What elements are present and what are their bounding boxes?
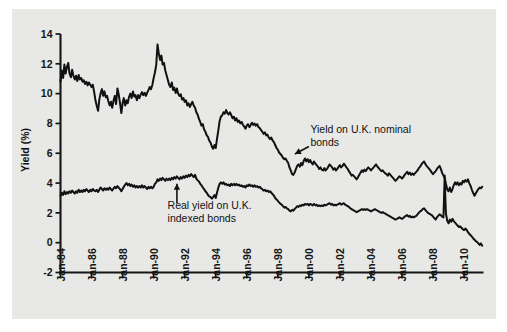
y-tick-label-6: 6 — [47, 147, 53, 159]
x-tick-label-Jan-04: Jan-04 — [365, 248, 377, 281]
y-tick-label-12: 12 — [41, 58, 53, 70]
x-tick-label-Jan-98: Jan-98 — [272, 248, 284, 281]
y-tick-label-0: 0 — [47, 236, 53, 248]
axis-lines-group — [61, 34, 484, 273]
y-tick-label-14: 14 — [41, 28, 53, 40]
x-tick-label-Jan-06: Jan-06 — [396, 248, 408, 281]
y-tick-labels-group: -202468101214 — [41, 28, 53, 278]
y-tick-label--2: -2 — [43, 266, 52, 278]
nominal-bonds-annotation-line2: bonds — [310, 136, 339, 148]
indexed-bonds-annotation-line2: indexed bonds — [168, 212, 236, 224]
data-series-group — [61, 44, 483, 245]
y-tick-label-2: 2 — [47, 207, 53, 219]
x-tick-label-Jan-92: Jan-92 — [179, 248, 191, 281]
x-tick-label-Jan-00: Jan-00 — [303, 248, 315, 281]
y-tick-label-8: 8 — [47, 117, 53, 129]
x-tick-label-Jan-96: Jan-96 — [241, 248, 253, 281]
x-tick-label-Jan-90: Jan-90 — [148, 248, 160, 281]
x-tick-label-Jan-02: Jan-02 — [334, 248, 346, 281]
series-line-indexed — [61, 174, 483, 246]
chart-plot: -202468101214 Jan-84Jan-86Jan-88Jan-90Ja… — [0, 0, 507, 332]
x-tick-label-Jan-10: Jan-10 — [458, 248, 470, 281]
indexed-bonds-annotation-line1: Real yield on U.K. — [168, 199, 252, 211]
x-tick-label-Jan-86: Jan-86 — [86, 248, 98, 281]
x-tick-label-Jan-88: Jan-88 — [117, 248, 129, 281]
series-line-nominal — [61, 44, 483, 195]
x-tick-label-Jan-94: Jan-94 — [210, 248, 222, 281]
figure-container: -202468101214 Jan-84Jan-86Jan-88Jan-90Ja… — [0, 0, 507, 332]
axis-ticks-group — [56, 34, 465, 279]
axis-spine — [61, 34, 484, 273]
y-tick-label-10: 10 — [41, 87, 53, 99]
nominal-bonds-annotation-line1: Yield on U.K. nominal — [310, 123, 411, 135]
x-tick-label-Jan-08: Jan-08 — [427, 248, 439, 281]
indexed-bonds-annotation-arrow-head — [174, 184, 180, 190]
y-axis-title: Yield (%) — [19, 128, 31, 172]
y-tick-label-4: 4 — [47, 177, 53, 189]
x-tick-labels-group: Jan-84Jan-86Jan-88Jan-90Jan-92Jan-94Jan-… — [55, 248, 471, 281]
